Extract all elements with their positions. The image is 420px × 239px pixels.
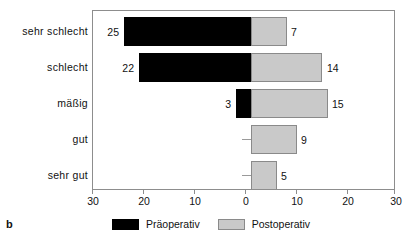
legend-item-praeoperativ[interactable]: Präoperativ — [112, 218, 200, 230]
plot-area: 25 7 22 14 3 15 9 5 — [92, 10, 395, 190]
category-label-sehr-schlecht: sehr schlecht — [0, 25, 88, 37]
value-pre-sehr-schlecht: 25 — [97, 26, 119, 38]
legend: Präoperativ Postoperativ — [112, 218, 310, 230]
x-axis-label-minus10: 10 — [189, 195, 201, 207]
bar-post-maessig[interactable] — [251, 89, 328, 118]
category-label-sehr-gut: sehr gut — [0, 169, 88, 181]
bar-post-schlecht[interactable] — [251, 53, 322, 82]
category-label-maessig: mäßig — [0, 97, 88, 109]
category-label-schlecht: schlecht — [0, 61, 88, 73]
x-axis-label-zero: 0 — [243, 195, 249, 207]
bar-row-sehr-schlecht: 25 7 — [93, 17, 394, 46]
bar-row-schlecht: 22 14 — [93, 53, 394, 82]
bar-pre-sehr-schlecht[interactable] — [124, 17, 252, 46]
value-post-schlecht: 14 — [327, 62, 339, 74]
zero-stub-sehr-gut — [242, 175, 251, 176]
value-post-gut: 9 — [301, 134, 307, 146]
value-pre-schlecht: 22 — [112, 62, 134, 74]
x-axis-tick-minus30 — [92, 190, 93, 194]
x-axis-tick-minus10 — [194, 190, 195, 194]
zero-stub-gut — [242, 139, 251, 140]
legend-item-postoperativ[interactable]: Postoperativ — [218, 218, 310, 230]
legend-label-praeoperativ: Präoperativ — [146, 218, 200, 230]
value-pre-maessig: 3 — [209, 98, 231, 110]
x-axis-line — [92, 189, 395, 190]
x-axis-label-plus30: 30 — [390, 195, 402, 207]
bar-pre-maessig[interactable] — [236, 89, 251, 118]
bar-post-sehr-schlecht[interactable] — [251, 17, 287, 46]
legend-swatch-postoperativ — [218, 219, 245, 230]
value-post-maessig: 15 — [332, 98, 344, 110]
x-axis-tick-minus20 — [143, 190, 144, 194]
x-axis-tick-zero — [245, 190, 246, 194]
x-axis-tick-plus10 — [296, 190, 297, 194]
category-label-gut: gut — [0, 133, 88, 145]
x-axis-tick-plus20 — [347, 190, 348, 194]
bar-pre-schlecht[interactable] — [139, 53, 251, 82]
x-axis-label-plus10: 10 — [291, 195, 303, 207]
value-post-sehr-gut: 5 — [281, 170, 287, 182]
category-axis-labels: sehr schlecht schlecht mäßig gut sehr gu… — [0, 0, 88, 190]
bar-row-gut: 9 — [93, 125, 394, 154]
figure-container: sehr schlecht schlecht mäßig gut sehr gu… — [0, 0, 420, 239]
x-axis-label-minus20: 20 — [138, 195, 150, 207]
bar-post-gut[interactable] — [251, 125, 297, 154]
figure-letter: b — [6, 218, 13, 230]
x-axis-label-minus30: 30 — [87, 195, 99, 207]
bar-row-maessig: 3 15 — [93, 89, 394, 118]
legend-swatch-praeoperativ — [112, 219, 139, 230]
bar-post-sehr-gut[interactable] — [251, 161, 277, 190]
value-post-sehr-schlecht: 7 — [291, 26, 297, 38]
x-axis-label-plus20: 20 — [342, 195, 354, 207]
x-axis-tick-plus30 — [394, 190, 395, 194]
bar-row-sehr-gut: 5 — [93, 161, 394, 190]
legend-label-postoperativ: Postoperativ — [252, 218, 310, 230]
